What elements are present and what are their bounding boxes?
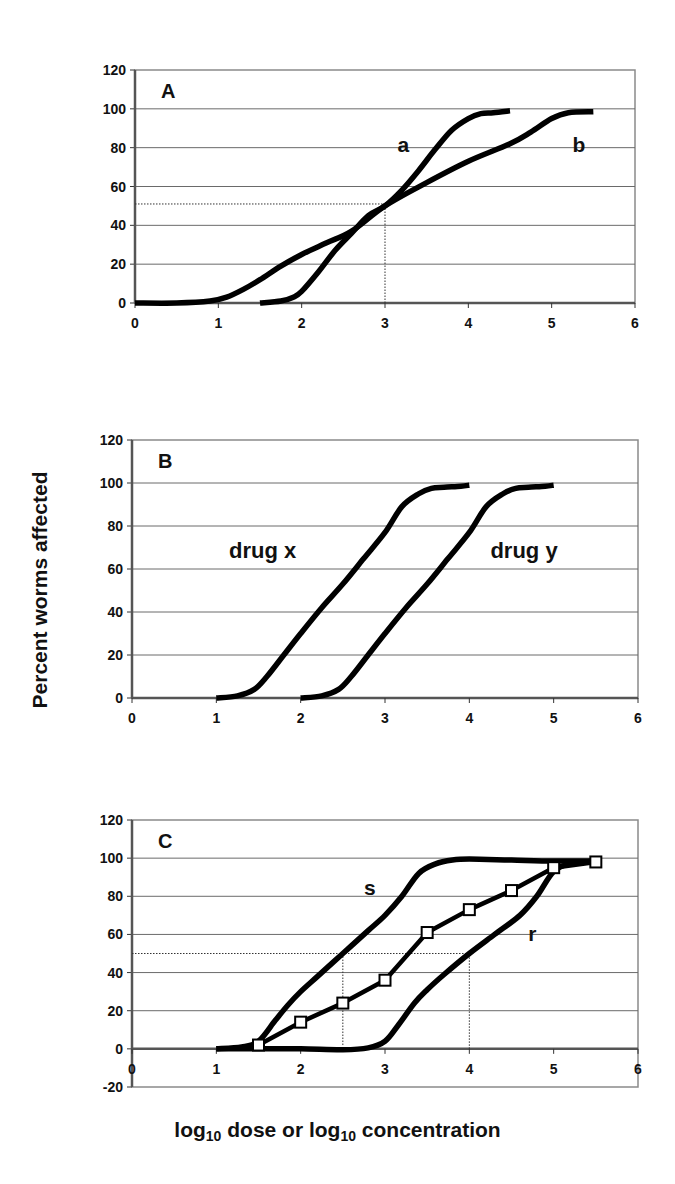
- y-tick-label: 20: [107, 647, 123, 663]
- y-tick-label: 60: [107, 926, 123, 942]
- y-tick-label: 20: [110, 256, 126, 272]
- x-tick-label: 3: [381, 315, 389, 331]
- series-label: s: [364, 876, 376, 899]
- square-marker: [506, 885, 517, 896]
- chart-panel-a: 0204060801001200123456abA: [103, 62, 639, 331]
- y-tick-label: 0: [118, 295, 126, 311]
- y-tick-label: 100: [100, 475, 124, 491]
- y-tick-label: 0: [115, 1041, 123, 1057]
- y-tick-label: 120: [100, 812, 124, 828]
- x-tick-label: 2: [298, 315, 306, 331]
- x-tick-label: 0: [128, 1061, 136, 1077]
- x-tick-label: 5: [550, 1061, 558, 1077]
- x-label-log-1: log: [174, 1118, 206, 1141]
- square-marker: [548, 862, 559, 873]
- x-tick-label: 0: [128, 710, 136, 726]
- chart-panel-b: 0204060801001200123456drug xdrug yB: [100, 432, 642, 726]
- square-marker: [422, 927, 433, 938]
- y-tick-label: 0: [115, 690, 123, 706]
- y-axis-label-text: Percent worms affected: [28, 472, 52, 709]
- x-tick-label: 4: [465, 710, 473, 726]
- x-tick-label: 1: [212, 710, 220, 726]
- x-tick-label: 4: [465, 1061, 473, 1077]
- series-label: drug y: [490, 538, 558, 563]
- x-tick-label: 2: [297, 710, 305, 726]
- y-tick-label: 100: [100, 850, 124, 866]
- square-marker: [253, 1040, 264, 1051]
- series-label: a: [398, 133, 410, 156]
- panel-letter: B: [158, 450, 172, 472]
- x-axis-label: log10 dose or log10 concentration: [0, 1118, 675, 1144]
- square-marker: [295, 1017, 306, 1028]
- square-marker: [380, 975, 391, 986]
- x-tick-label: 1: [212, 1061, 220, 1077]
- square-marker: [337, 998, 348, 1009]
- x-tick-label: 4: [464, 315, 472, 331]
- y-tick-label: 80: [107, 888, 123, 904]
- x-tick-label: 0: [131, 315, 139, 331]
- chart-panel-c: -200204060801001200123456srC: [100, 812, 642, 1095]
- y-tick-label: 60: [107, 561, 123, 577]
- y-tick-label: 80: [110, 140, 126, 156]
- x-tick-label: 3: [381, 1061, 389, 1077]
- y-tick-label: 120: [100, 432, 124, 448]
- figure: 0204060801001200123456abA020406080100120…: [0, 0, 675, 1184]
- chart-canvas: 0204060801001200123456abA020406080100120…: [0, 0, 675, 1184]
- y-tick-label: 80: [107, 518, 123, 534]
- y-tick-label: 40: [107, 965, 123, 981]
- x-tick-label: 1: [214, 315, 222, 331]
- y-tick-label: 100: [103, 101, 127, 117]
- series-label: r: [528, 922, 536, 945]
- y-axis-label: Percent worms affected: [20, 420, 60, 760]
- x-tick-label: 5: [548, 315, 556, 331]
- x-tick-label: 2: [297, 1061, 305, 1077]
- y-tick-label: 40: [110, 217, 126, 233]
- y-tick-label: 60: [110, 179, 126, 195]
- square-marker: [590, 856, 601, 867]
- series-label: b: [573, 133, 586, 156]
- y-tick-label: 40: [107, 604, 123, 620]
- square-marker: [464, 904, 475, 915]
- x-label-sub-2: 10: [340, 1128, 356, 1144]
- panel-letter: A: [161, 80, 175, 102]
- x-label-mid: dose or log: [221, 1118, 340, 1141]
- x-tick-label: 6: [631, 315, 639, 331]
- x-tick-label: 3: [381, 710, 389, 726]
- y-tick-label: -20: [103, 1079, 123, 1095]
- x-tick-label: 5: [550, 710, 558, 726]
- x-label-sub-1: 10: [206, 1128, 222, 1144]
- y-tick-label: 20: [107, 1003, 123, 1019]
- x-tick-label: 6: [634, 710, 642, 726]
- x-label-end: concentration: [356, 1118, 501, 1141]
- panel-letter: C: [158, 830, 172, 852]
- x-tick-label: 6: [634, 1061, 642, 1077]
- series-label: drug x: [229, 538, 297, 563]
- y-tick-label: 120: [103, 62, 127, 78]
